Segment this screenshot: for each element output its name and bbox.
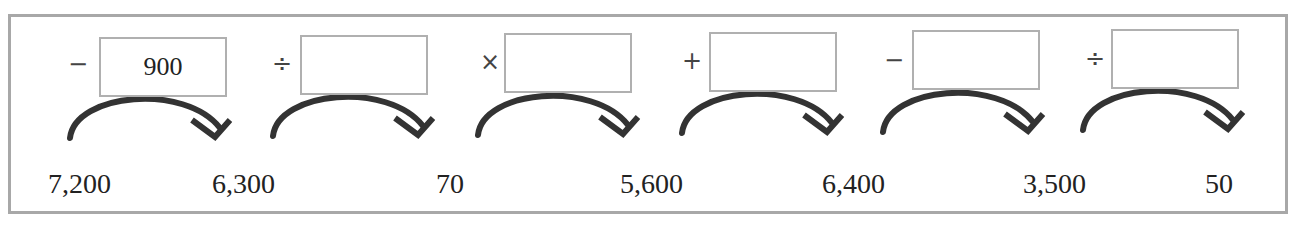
chain-number-3: 70 — [436, 168, 464, 200]
chain-number-6: 3,500 — [1023, 168, 1086, 200]
chain-number-7: 50 — [1205, 168, 1233, 200]
chain-number-1: 7,200 — [48, 168, 111, 200]
curved-arrow-icon — [682, 94, 842, 133]
answer-box-1[interactable]: 900 — [99, 37, 227, 97]
answer-box-4[interactable] — [709, 32, 837, 92]
chain-number-4: 5,600 — [620, 168, 683, 200]
answer-box-5[interactable] — [912, 30, 1040, 90]
chain-number-5: 6,400 — [822, 168, 885, 200]
minus-operator: − — [884, 46, 904, 74]
answer-box-6[interactable] — [1111, 29, 1239, 89]
multiply-operator: × — [480, 48, 500, 76]
curved-arrow-icon — [883, 93, 1043, 132]
minus-operator: − — [68, 50, 88, 78]
answer-box-2[interactable] — [300, 35, 428, 95]
curved-arrow-icon — [1083, 91, 1243, 130]
answer-box-3[interactable] — [504, 33, 632, 93]
curved-arrow-icon — [70, 99, 230, 138]
divide-operator: ÷ — [1085, 45, 1105, 73]
plus-operator: + — [682, 47, 702, 75]
chain-number-2: 6,300 — [212, 168, 275, 200]
curved-arrow-icon — [478, 96, 638, 135]
curved-arrow-icon — [273, 97, 433, 136]
divide-operator: ÷ — [272, 50, 292, 78]
